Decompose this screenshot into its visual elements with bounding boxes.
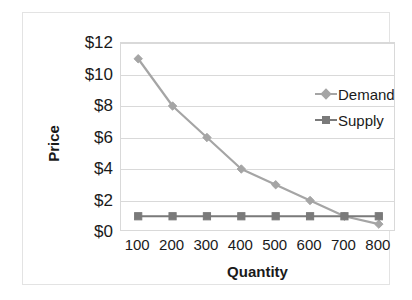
chart-frame: Price $0$2$4$6$8$10$12 DemandSupply 1002… (22, 12, 390, 285)
y-axis-tick-label: $2 (39, 191, 113, 208)
y-axis-tick-label: $8 (39, 97, 113, 114)
x-axis-title: Quantity (120, 263, 395, 280)
x-axis-tick-label: 400 (223, 237, 257, 261)
square-marker-icon (315, 113, 337, 127)
y-axis-tick-label: $10 (39, 65, 113, 82)
data-point-marker (203, 213, 210, 220)
data-point-marker (375, 213, 382, 220)
data-point-marker (238, 213, 245, 220)
chart-legend: DemandSupply (315, 81, 395, 133)
x-axis-tick-label: 100 (120, 237, 154, 261)
x-axis-tick-label: 500 (258, 237, 292, 261)
diamond-marker-icon (315, 87, 337, 101)
legend-label: Supply (338, 113, 384, 128)
plot-series-svg (121, 43, 396, 232)
y-axis-tick-label: $0 (39, 223, 113, 240)
x-axis-tick-labels: 100200300400500600700800 (120, 237, 395, 261)
x-axis-tick-label: 800 (361, 237, 395, 261)
x-axis-tick-label: 300 (189, 237, 223, 261)
x-axis-tick-label: 600 (292, 237, 326, 261)
y-axis-tick-label: $4 (39, 160, 113, 177)
y-axis-tick-label: $12 (39, 34, 113, 51)
series-supply (135, 213, 383, 220)
plot-area (120, 42, 395, 231)
data-point-marker (306, 213, 313, 220)
data-point-marker (341, 213, 348, 220)
data-point-marker (135, 213, 142, 220)
y-axis-tick-labels: $0$2$4$6$8$10$12 (31, 42, 113, 231)
data-point-marker (306, 196, 314, 204)
data-point-marker (375, 220, 383, 228)
legend-label: Demand (338, 87, 395, 102)
data-point-marker (271, 181, 279, 189)
data-point-marker (169, 213, 176, 220)
y-axis-tick-label: $6 (39, 128, 113, 145)
legend-entry-demand[interactable]: Demand (315, 81, 395, 107)
x-axis-tick-label: 200 (154, 237, 188, 261)
legend-entry-supply[interactable]: Supply (315, 107, 395, 133)
data-point-marker (272, 213, 279, 220)
x-axis-tick-label: 700 (326, 237, 360, 261)
supply-demand-chart: Price $0$2$4$6$8$10$12 DemandSupply 1002… (0, 0, 412, 300)
